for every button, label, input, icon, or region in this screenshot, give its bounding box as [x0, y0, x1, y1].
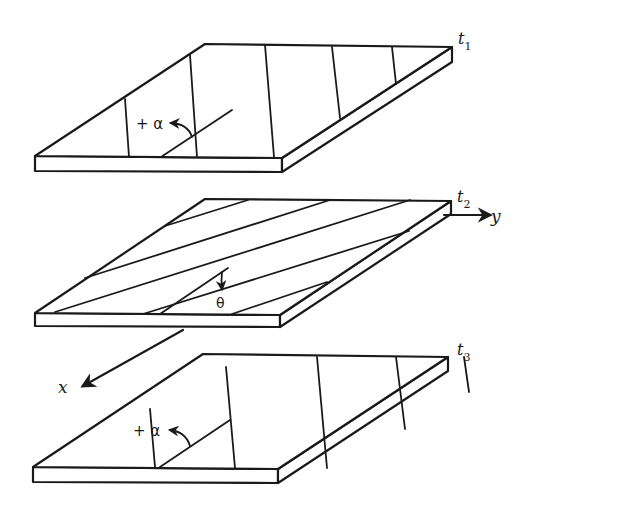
ply-label-t3: t3 — [457, 340, 470, 364]
ply-t2: θ t2 — [35, 187, 470, 327]
ply-label-t1: t1 — [458, 29, 471, 53]
alpha-label: + α — [133, 422, 160, 440]
theta-arrow-icon — [222, 272, 223, 289]
x-axis-label: x — [58, 377, 68, 397]
y-axis-label: y — [490, 206, 501, 226]
ply-t1: + α t1 — [35, 29, 471, 172]
ply-t3: + α t3 — [33, 340, 470, 483]
ply-t2-top-face — [35, 199, 451, 315]
laminate-diagram: + α t1 θ t2 y x + α — [0, 0, 633, 513]
alpha-label: + α — [136, 115, 163, 133]
theta-label: θ — [216, 295, 225, 311]
ply-label-t2: t2 — [457, 187, 470, 211]
